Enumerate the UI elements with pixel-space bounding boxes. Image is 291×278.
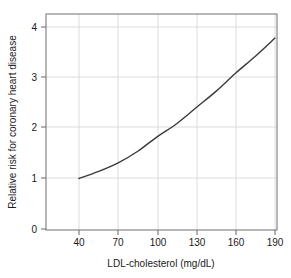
x-tick-label: 130 xyxy=(189,237,206,248)
y-tick-label: 0 xyxy=(31,224,37,235)
x-tick-label: 100 xyxy=(150,237,167,248)
relative-risk-line-chart: 4 3 2 1 0 40 70 100 130 160 190 LDL-chol… xyxy=(0,0,291,278)
y-tick-label: 2 xyxy=(31,122,37,133)
x-axis-title: LDL-cholesterol (mg/dL) xyxy=(107,258,214,269)
y-tick-label: 1 xyxy=(31,173,37,184)
y-axis-title: Relative risk for coronary heart disease xyxy=(7,35,18,209)
x-tick-label: 70 xyxy=(112,237,124,248)
chart-background xyxy=(0,0,291,278)
x-tick-label: 40 xyxy=(73,237,85,248)
y-tick-label: 4 xyxy=(31,22,37,33)
x-tick-label: 190 xyxy=(267,237,284,248)
y-tick-label: 3 xyxy=(31,72,37,83)
chart-figure: 4 3 2 1 0 40 70 100 130 160 190 LDL-chol… xyxy=(0,0,291,278)
x-tick-label: 160 xyxy=(228,237,245,248)
